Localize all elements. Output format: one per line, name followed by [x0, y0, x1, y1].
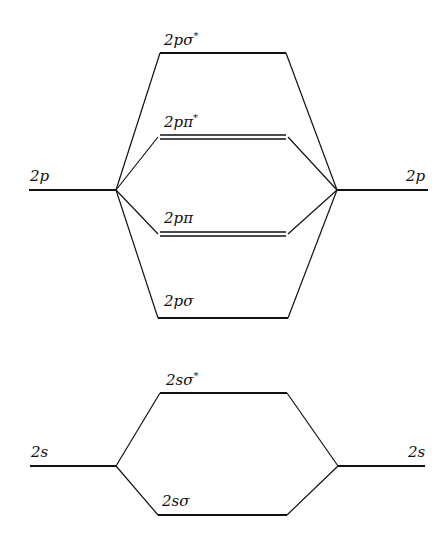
right-2p-label: 2p — [405, 167, 426, 185]
connector — [116, 190, 158, 234]
label-2p-sigma: 2pσ — [163, 292, 194, 310]
connector — [116, 466, 158, 515]
connector — [116, 190, 158, 318]
connector — [116, 393, 160, 466]
left-2p-label: 2p — [29, 167, 50, 185]
connector — [286, 53, 337, 190]
label-2p-pi: 2pπ — [163, 209, 194, 227]
label-2p-sigma-star: 2pσ* — [163, 30, 198, 49]
mo-diagram: 2p 2p 2pσ* 2pπ* 2pπ 2pσ 2s 2s 2sσ* 2sσ — [0, 0, 448, 533]
left-2s-label: 2s — [30, 443, 49, 461]
connector — [288, 190, 337, 234]
connector — [288, 137, 337, 190]
connector — [287, 393, 338, 466]
label-2s-sigma-star: 2sσ* — [165, 370, 198, 389]
label-2s-sigma: 2sσ — [161, 492, 190, 510]
connector — [288, 190, 337, 318]
connector — [287, 466, 338, 515]
label-2p-pi-star: 2pπ* — [163, 112, 198, 131]
connector — [116, 137, 158, 190]
connector — [116, 53, 160, 190]
right-2s-label: 2s — [407, 443, 426, 461]
